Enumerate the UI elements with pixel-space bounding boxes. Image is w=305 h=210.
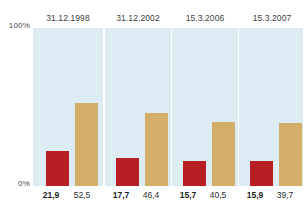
bar-red-4 [250, 161, 273, 186]
panel-header-4: 15.3.2007 [239, 13, 305, 25]
bar-tan-1 [75, 103, 98, 186]
bar-tan-3 [212, 122, 235, 186]
panel-header-1: 31.12.1998 [33, 13, 103, 25]
bar-chart: 100% 0% 31.12.1998 21,9 52,5 31.12.2002 … [0, 0, 305, 210]
chart-panel-1 [33, 28, 103, 186]
axis-tick-100: 100% [0, 21, 30, 30]
panel-header-3: 15.3.2006 [172, 13, 238, 25]
panel-header-2: 31.12.2002 [105, 13, 171, 25]
value-label-tan-3: 40,5 [200, 190, 236, 200]
bar-red-2 [116, 158, 139, 186]
chart-panel-4 [239, 28, 303, 186]
value-label-tan-2: 46,4 [133, 190, 169, 200]
chart-panel-3 [172, 28, 238, 186]
bar-tan-4 [279, 123, 302, 186]
chart-panel-2 [105, 28, 171, 186]
bar-red-1 [46, 151, 69, 186]
bar-red-3 [183, 161, 206, 186]
axis-tick-0: 0% [0, 179, 30, 188]
bar-tan-2 [145, 113, 168, 186]
value-label-tan-4: 39,7 [267, 190, 303, 200]
value-label-tan-1: 52,5 [64, 190, 100, 200]
